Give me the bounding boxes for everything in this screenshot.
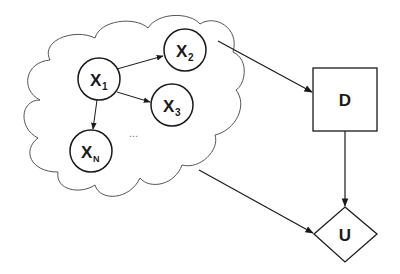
- node-xn-sub: N: [93, 154, 100, 164]
- decision-node-d: D: [313, 68, 377, 131]
- edge-cloud-u: [199, 170, 313, 233]
- cloud-shape: [24, 15, 244, 196]
- node-xn-label: X: [81, 143, 93, 162]
- node-x3: X 3: [151, 84, 193, 126]
- node-x2: X 2: [164, 29, 206, 71]
- utility-node-u-label: U: [339, 226, 351, 245]
- node-x3-sub: 3: [175, 107, 181, 118]
- utility-node-u: U: [314, 207, 377, 262]
- node-x3-label: X: [163, 97, 175, 116]
- ellipsis: ...: [129, 127, 138, 139]
- decision-node-d-label: D: [339, 91, 351, 110]
- node-x1-sub: 1: [102, 81, 108, 92]
- node-x2-sub: 2: [188, 52, 194, 63]
- node-x1-label: X: [90, 71, 102, 90]
- node-xn: X N: [70, 130, 112, 172]
- influence-diagram: X 1 X 2 X 3 X N ... D U: [0, 0, 400, 274]
- node-x2-label: X: [176, 42, 188, 61]
- node-x1: X 1: [78, 58, 120, 100]
